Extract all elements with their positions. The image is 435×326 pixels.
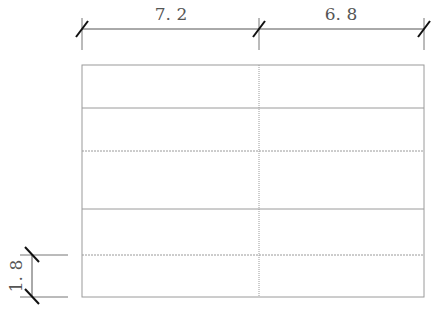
grid — [82, 65, 424, 297]
dimension-label-span-2: 6. 8 — [325, 4, 357, 24]
structural-grid-diagram: 7. 2 6. 8 1. 8 — [0, 0, 435, 326]
dimension-label-left: 1. 8 — [6, 260, 26, 292]
left-dimension: 1. 8 — [6, 247, 68, 304]
top-dimension-chain: 7. 2 6. 8 — [76, 4, 430, 50]
dimension-label-span-1: 7. 2 — [155, 4, 187, 24]
grid-outline — [82, 65, 424, 297]
